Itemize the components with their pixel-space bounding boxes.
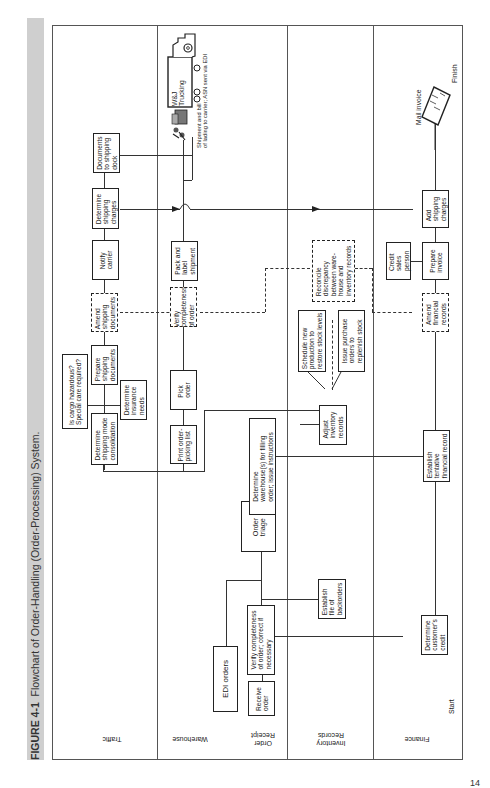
determine-shipping-mode-box: Determine shipping mode consolidation: [91, 413, 118, 465]
prepare-invoice-box: Prepare invoice: [422, 242, 449, 280]
add-shipping-charges-box: Add shipping charges: [422, 190, 449, 228]
envelope-icon: [420, 85, 455, 130]
establish-backorders-box: Establish file of backorders: [318, 579, 346, 619]
pick-order-box: Pick order: [170, 370, 197, 410]
issue-purchase-box: Issue purchase orders to replenish stock: [338, 310, 365, 372]
mail-invoice-label: Mail invoice: [415, 89, 422, 125]
reconcile-box: Reconcile discrepancy between ware- hous…: [312, 240, 355, 302]
determine-credit-box: Determine customer's credit: [421, 615, 448, 655]
documents-dock-box: Documents to shipping dock: [93, 133, 120, 173]
dashed-connector: [265, 268, 310, 269]
dashed-connector: [372, 268, 373, 312]
dashed-connector: [200, 312, 265, 313]
determine-warehouse-box: Determine warehouse(s) for filling order…: [249, 418, 276, 515]
dashed-connector: [372, 312, 412, 313]
page-number: 14: [470, 778, 480, 788]
verify-order-box: Verify completeness of order; correct if…: [247, 605, 275, 675]
verify-completeness-box: Verify completeness of order: [170, 287, 197, 327]
credit-sales-box: Credit sales person: [386, 242, 411, 280]
determine-insurance-box: Determine insurance needs: [120, 380, 147, 420]
schedule-production-box: Schedule new production to restore stock…: [298, 310, 326, 372]
dashed-connector: [355, 268, 372, 269]
notify-carrier-box: Notify carrier: [92, 240, 119, 280]
print-picking-box: Print order- picking list: [170, 425, 197, 464]
pack-label-box: Pack and label shipment: [171, 241, 198, 281]
workers-icon: [170, 108, 195, 144]
dashed-connector: [332, 320, 333, 390]
edi-orders-box: EDI orders: [213, 646, 238, 712]
trucking-label: W&J Trucking: [171, 80, 186, 106]
receive-order-box: Receive order: [248, 681, 275, 716]
amend-shipping-docs-box: Amend shipping documents: [91, 293, 118, 332]
amend-financial-box: Amend financial records: [422, 293, 449, 332]
shipment-note: Shipment and bill of lading to carrier; …: [196, 54, 209, 148]
establish-financial-box: Establish tentative financial record: [423, 430, 450, 482]
dashed-connector: [265, 268, 266, 312]
cargo-question-box: Is cargo hazardous? Special care require…: [62, 354, 88, 429]
adjust-inventory-box: Adjust inventory records: [319, 405, 347, 445]
prepare-shipping-docs-box: Prepare shipping documents: [91, 345, 118, 385]
determine-shipping-charges-box: Determine shipping charges: [92, 188, 119, 229]
connector: [411, 261, 422, 262]
